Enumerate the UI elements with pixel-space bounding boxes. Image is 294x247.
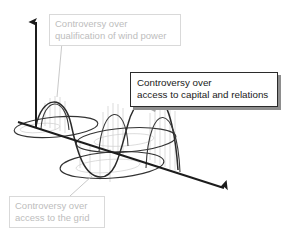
callout-capital-relations-line1: Controversy over <box>137 77 271 89</box>
callout-wind-power-line2: qualification of wind power <box>55 30 175 42</box>
ellipse-wind-power <box>13 113 98 140</box>
callout-wind-power-line1: Controversy over <box>55 18 175 30</box>
callout-capital-relations-line2: access to capital and relations <box>137 89 271 101</box>
callout-capital-relations[interactable]: Controversy over access to capital and r… <box>130 72 278 107</box>
diagram-canvas: Controversy over qualification of wind p… <box>0 0 294 247</box>
callout-wind-power[interactable]: Controversy over qualification of wind p… <box>49 14 181 46</box>
leader-line-grid <box>70 176 92 196</box>
diagonal-axis <box>18 122 224 188</box>
callout-grid-access-line1: Controversy over <box>15 200 99 212</box>
leader-line-wind-power <box>57 42 62 97</box>
dome-arcs-group <box>41 104 180 172</box>
callout-grid-access-line2: access to the grid <box>15 212 99 224</box>
callout-grid-access[interactable]: Controversy over access to the grid <box>9 196 105 228</box>
leader-lines-group <box>57 42 92 196</box>
